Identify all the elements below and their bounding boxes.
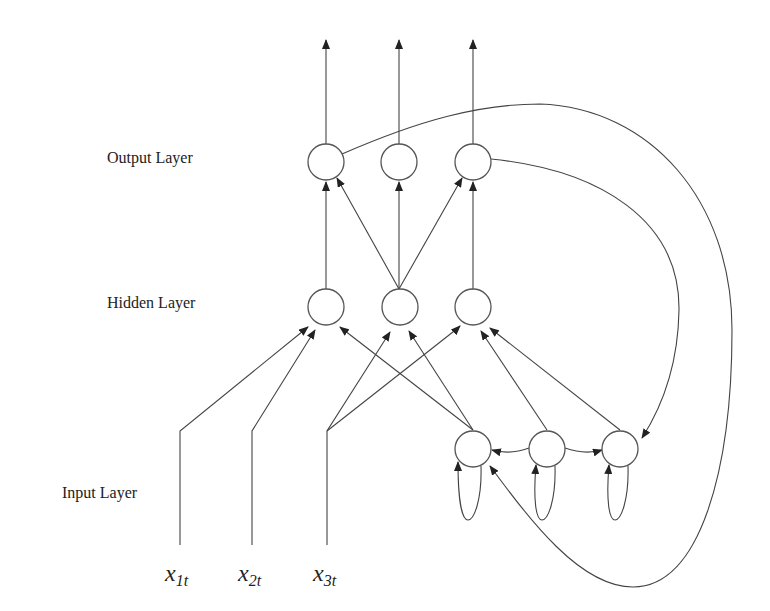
input-x1-label: x1t (165, 560, 188, 590)
context-node-3 (602, 431, 638, 467)
output-arrows (326, 40, 473, 144)
output-node-1 (308, 144, 344, 180)
output-layer-label: Output Layer (107, 149, 193, 167)
hidden-node-1 (308, 289, 344, 325)
hidden-to-output-edges (326, 178, 473, 289)
hidden-layer-label: Hidden Layer (107, 294, 195, 312)
hidden-node-3 (455, 289, 491, 325)
context-node-2 (529, 431, 565, 467)
input-x3-label: x3t (313, 560, 336, 590)
input-layer-label: Input Layer (62, 484, 137, 502)
input-x2-label: x2t (238, 560, 261, 590)
input-to-hidden-edges (180, 326, 460, 545)
hidden-nodes (308, 289, 491, 325)
context-node-1 (455, 431, 491, 467)
hidden-node-2 (382, 289, 418, 325)
output-node-2 (381, 144, 417, 180)
context-to-hidden-edges (340, 327, 620, 430)
output-node-3 (455, 144, 491, 180)
output-nodes (308, 144, 491, 180)
context-self-loops (458, 462, 628, 520)
context-nodes (455, 431, 638, 467)
